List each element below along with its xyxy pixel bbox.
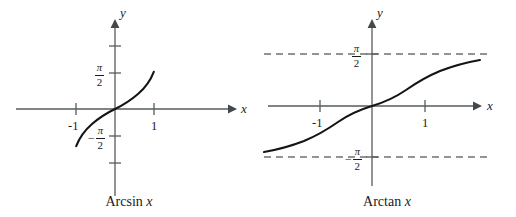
arcsin-y-axis-arrow [111, 19, 120, 28]
arcsin-caption: Arcsin x [0, 195, 258, 209]
arctan-ytick-label-pi-over-2: π 2 [352, 44, 361, 69]
arctan-xtick-label-minus1: -1 [312, 117, 322, 130]
fraction-numerator: π [353, 44, 360, 56]
fraction-numerator: π [354, 147, 361, 159]
arcsin-ytick-label-pi-over-2: π 2 [95, 63, 104, 88]
arctan-plot-canvas [258, 0, 516, 217]
fraction-denominator: 2 [96, 76, 104, 88]
arcsin-caption-name: Arcsin [105, 194, 142, 209]
fraction-numerator: π [97, 126, 104, 138]
fraction-stack: π 2 [352, 44, 361, 69]
fraction-numerator: π [96, 63, 103, 75]
plot-panel-arcsin: y x -1 1 π 2 − π 2 Arcsin x [0, 0, 258, 217]
fraction-denominator: 2 [97, 139, 105, 151]
arcsin-xtick-label-plus1: 1 [151, 120, 157, 133]
arctan-y-axis-arrow [368, 19, 377, 28]
fraction-denominator: 2 [353, 57, 361, 69]
arctan-y-axis-label: y [377, 6, 383, 19]
minus-sign: − [345, 153, 352, 165]
arctan-ytick-label-neg-pi-over-2: − π 2 [345, 147, 362, 172]
arctan-xtick-label-plus1: 1 [422, 117, 428, 130]
arcsin-ytick-label-neg-pi-over-2: − π 2 [88, 126, 105, 151]
arctan-x-axis-label: x [487, 99, 493, 112]
arctan-caption-variable: x [405, 194, 411, 209]
arcsin-xtick-label-minus1: -1 [68, 120, 78, 133]
minus-sign: − [88, 132, 95, 144]
arcsin-y-axis-label: y [120, 6, 126, 19]
arcsin-x-axis-label: x [241, 102, 247, 115]
arctan-x-axis-arrow [473, 102, 482, 111]
fraction-stack: π 2 [95, 63, 104, 88]
arctan-caption-name: Arctan [363, 194, 401, 209]
arctan-caption: Arctan x [258, 195, 516, 209]
arcsin-x-axis-arrow [228, 105, 237, 114]
arcsin-plot-canvas [0, 0, 258, 217]
trig-inverse-figure: y x -1 1 π 2 − π 2 Arcsin x [0, 0, 516, 217]
arcsin-caption-variable: x [146, 194, 152, 209]
plot-panel-arctan: y x -1 1 π 2 − π 2 Arctan x [258, 0, 516, 217]
fraction-denominator: 2 [354, 160, 362, 172]
fraction-stack: π 2 [96, 126, 105, 151]
fraction-stack: π 2 [353, 147, 362, 172]
